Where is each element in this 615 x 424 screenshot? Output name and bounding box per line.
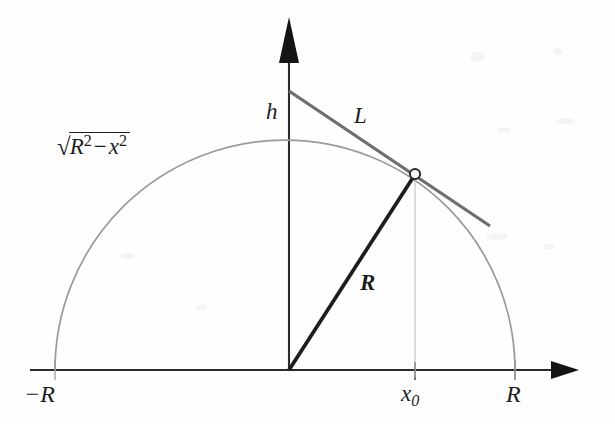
figure-canvas: h L R −R x0 R √R2−x2 — [0, 0, 615, 424]
label-axis-x0: x0 — [401, 382, 419, 409]
scan-speck — [553, 48, 562, 55]
scan-speck — [120, 253, 135, 259]
scan-speck — [543, 244, 555, 250]
scan-speck — [497, 127, 511, 133]
radicand-exponent-1: 2 — [84, 132, 92, 149]
scan-speck — [556, 118, 575, 124]
label-axis-x0-subscript: 0 — [411, 392, 419, 409]
radius-line-r — [289, 176, 414, 370]
radicand-base-1: R — [70, 134, 84, 159]
radicand-group: R2−x2 — [69, 132, 130, 159]
radicand-exponent-2: 2 — [119, 132, 127, 149]
diagram-svg — [0, 0, 615, 424]
label-axis-x0-base: x — [401, 381, 411, 406]
tangency-point-marker — [410, 169, 420, 179]
label-curve-expression: √R2−x2 — [57, 133, 130, 159]
scan-speck — [196, 305, 207, 310]
label-radius-r: R — [360, 271, 375, 294]
label-tangent-l: L — [354, 104, 367, 127]
y-axis-arrow-icon — [279, 17, 299, 63]
label-height-h: h — [266, 100, 278, 123]
label-axis-minus-r: −R — [24, 382, 55, 406]
radicand-minus: − — [92, 134, 109, 159]
scan-speck — [486, 233, 508, 240]
label-axis-r: R — [506, 382, 521, 406]
x-axis-arrow-icon — [551, 361, 579, 379]
radicand-base-2: x — [109, 134, 119, 159]
tangent-line-l — [289, 91, 490, 226]
scan-speck — [470, 52, 486, 61]
radical-sign-icon: √ — [57, 133, 71, 160]
